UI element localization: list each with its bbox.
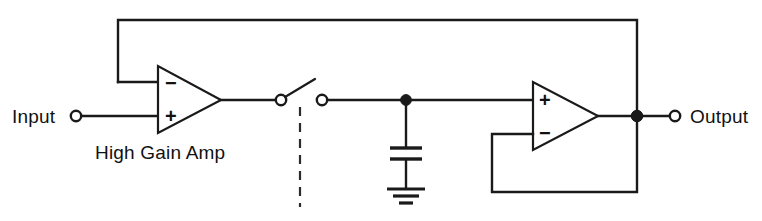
- output-terminal-circle[interactable]: [670, 111, 680, 121]
- hold-capacitor: [390, 100, 422, 188]
- output-label: Output: [690, 106, 749, 127]
- amp2-inverting-pin-label: −: [539, 122, 551, 144]
- amp2-noninverting-pin-label: +: [539, 89, 551, 111]
- output-node-junction: [631, 110, 643, 122]
- circuit-diagram: Input − + High Gain Amp: [0, 0, 762, 221]
- output-terminal[interactable]: [598, 110, 680, 122]
- sampling-switch[interactable]: [276, 79, 327, 105]
- switch-right-contact[interactable]: [317, 95, 327, 105]
- switch-blade: [285, 79, 315, 97]
- ground-symbol: [387, 189, 425, 203]
- hold-node-wire: [328, 95, 533, 106]
- input-terminal[interactable]: [71, 111, 158, 121]
- amp1-inverting-pin-label: −: [165, 72, 177, 94]
- input-terminal-circle[interactable]: [71, 111, 81, 121]
- high-gain-amplifier[interactable]: − +: [158, 66, 221, 133]
- buffer-amplifier[interactable]: + −: [533, 82, 598, 150]
- amplifier-caption: High Gain Amp: [95, 142, 225, 163]
- amp1-noninverting-pin-label: +: [165, 105, 177, 127]
- schematic-canvas: Input − + High Gain Amp: [0, 0, 762, 221]
- input-label: Input: [12, 106, 56, 127]
